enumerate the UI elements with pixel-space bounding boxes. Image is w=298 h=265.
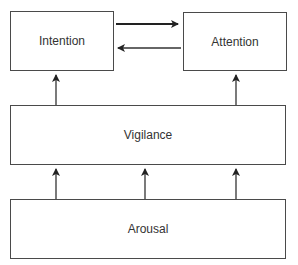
edges-layer xyxy=(0,0,298,265)
